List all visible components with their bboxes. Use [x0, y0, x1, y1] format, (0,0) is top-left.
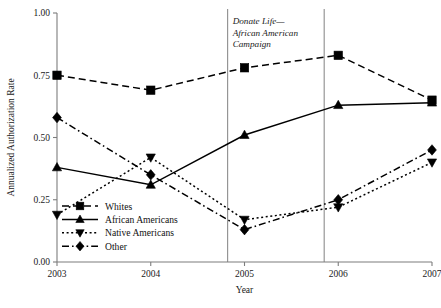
annualized-authorization-rate-line-chart: 0.000.250.500.751.0020032004200520062007… — [0, 0, 441, 308]
data-point — [53, 112, 62, 123]
x-axis-title: Year — [236, 285, 254, 295]
series-line — [57, 55, 432, 100]
data-point — [52, 211, 61, 219]
legend: WhitesAfrican AmericansNative AmericansO… — [62, 201, 178, 252]
data-point — [428, 145, 437, 156]
x-tick-label-3: 2006 — [329, 269, 348, 279]
data-point — [146, 154, 155, 162]
legend-label-2: Native Americans — [105, 227, 174, 238]
data-point — [52, 163, 61, 171]
y-tick-label-4: 1.00 — [33, 8, 50, 18]
y-tick-label-2: 0.50 — [33, 133, 50, 143]
legend-label-1: African Americans — [105, 214, 178, 225]
x-tick-label-2: 2005 — [235, 269, 254, 279]
y-axis-title: Annualized Authorization Rate — [6, 78, 16, 196]
data-point — [240, 216, 249, 224]
y-tick-label-3: 0.75 — [33, 71, 50, 81]
legend-label-0: Whites — [105, 201, 132, 212]
data-point — [146, 170, 155, 181]
data-point — [334, 195, 343, 206]
legend-label-3: Other — [105, 241, 128, 252]
series-african-americans — [52, 98, 436, 188]
series-whites — [53, 51, 436, 104]
y-tick-label-0: 0.00 — [33, 257, 50, 267]
x-tick-label-0: 2003 — [48, 269, 67, 279]
legend-marker — [76, 202, 84, 210]
x-tick-label-4: 2007 — [423, 269, 441, 279]
chart-container: 0.000.250.500.751.0020032004200520062007… — [0, 0, 441, 308]
data-point — [240, 224, 249, 235]
y-tick-label-1: 0.25 — [33, 195, 50, 205]
data-point — [427, 159, 436, 167]
campaign-annotation-line-3: Campaign — [233, 39, 272, 49]
data-point — [334, 51, 342, 59]
data-point — [240, 64, 248, 72]
data-point — [53, 71, 61, 79]
campaign-annotation-line-1: Donate Life— — [232, 16, 286, 26]
data-point — [147, 86, 155, 94]
campaign-annotation-line-2: African American — [232, 28, 299, 38]
series-line — [57, 103, 432, 185]
x-tick-label-1: 2004 — [141, 269, 160, 279]
legend-marker — [76, 241, 84, 251]
